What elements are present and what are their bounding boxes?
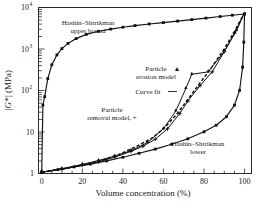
annotation-curve-fit-label: Curve fit	[135, 88, 160, 96]
annotation-hs-lower-line1: Hashin–Shtrikman	[172, 140, 225, 148]
y-axis-title-unit: (MPa)	[3, 70, 13, 95]
x-tick-label-80: 80	[200, 177, 208, 186]
annotation-erosion-line1: Particle	[145, 65, 166, 73]
x-tick-label-40: 40	[119, 177, 127, 186]
annotation-erosion-line2: erosion model	[136, 73, 176, 81]
y-tick-label-1000: 10	[21, 45, 29, 54]
chart-svg: 1 10 10 2 10 3 10 4 0 20 40 60 80 100 Vo…	[0, 0, 266, 210]
y-tick-exponent-2: 2	[30, 84, 33, 90]
y-tick-exponent-3: 3	[30, 43, 33, 49]
y-axis-title: |G*| (MPa)	[3, 70, 13, 111]
x-tick-label-20: 20	[78, 177, 86, 186]
annotation-removal-line1: Particle	[101, 106, 122, 114]
figure-container: 1 10 10 2 10 3 10 4 0 20 40 60 80 100 Vo…	[0, 0, 266, 210]
annotation-hs-upper-line2: upper bound	[70, 27, 106, 35]
y-tick-label-10000: 10	[21, 3, 29, 12]
annotation-hs-lower-line2: lower	[190, 148, 207, 156]
y-axis-title-math: |G*|	[3, 95, 13, 111]
y-tick-label-1: 1	[30, 169, 34, 178]
svg-text:|G*| (MPa): |G*| (MPa)	[3, 70, 13, 111]
annotation-removal-line2: removal model, +	[87, 114, 137, 122]
y-tick-label-100: 10	[21, 86, 29, 95]
triangle-marker-icon: ▲	[174, 65, 181, 73]
x-tick-label-100: 100	[239, 177, 251, 186]
y-tick-label-10: 10	[26, 128, 34, 137]
x-tick-label-60: 60	[159, 177, 167, 186]
annotation-hs-upper-line1: Hashin–Shtrikman	[62, 19, 115, 27]
x-tick-label-0: 0	[40, 177, 44, 186]
y-tick-exponent-4: 4	[30, 1, 33, 7]
x-axis-title: Volume concentration (%)	[96, 188, 191, 198]
